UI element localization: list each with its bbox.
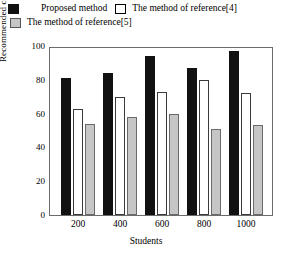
bar-600-series-3 bbox=[169, 114, 179, 215]
legend-swatch-reference-5 bbox=[10, 18, 21, 28]
x-tick-label: 1000 bbox=[226, 219, 266, 229]
chart-legend: Proposed method The method of reference[… bbox=[0, 0, 292, 28]
x-tick-label: 800 bbox=[184, 219, 224, 229]
y-axis-title: Recommended coverage rate/% bbox=[0, 0, 8, 62]
y-tick-label: 20 bbox=[19, 176, 45, 186]
bar-group-400 bbox=[100, 48, 140, 215]
bar-group-1000 bbox=[226, 48, 266, 215]
legend-row-first: Proposed method The method of reference[… bbox=[0, 3, 292, 14]
bar-400-series-1 bbox=[103, 73, 113, 215]
bar-group-600 bbox=[142, 48, 182, 215]
y-tick-label: 80 bbox=[19, 75, 45, 85]
legend-label-reference-5: The method of reference[5] bbox=[27, 17, 132, 28]
bar-800-series-2 bbox=[199, 80, 209, 215]
bar-group-800 bbox=[184, 48, 224, 215]
bar-1000-series-3 bbox=[253, 125, 263, 215]
x-tick-label: 200 bbox=[58, 219, 98, 229]
legend-swatch-proposed-method bbox=[8, 4, 19, 14]
bar-800-series-1 bbox=[187, 68, 197, 215]
y-tick-label: 60 bbox=[19, 109, 45, 119]
y-tick-label: 40 bbox=[19, 142, 45, 152]
x-tick-label: 400 bbox=[100, 219, 140, 229]
bar-1000-series-1 bbox=[229, 51, 239, 215]
legend-label-proposed-method: Proposed method bbox=[41, 3, 107, 14]
bar-600-series-2 bbox=[157, 92, 167, 215]
chart-container: Proposed method The method of reference[… bbox=[0, 0, 292, 262]
bar-200-series-3 bbox=[85, 124, 95, 215]
legend-label-reference-4: The method of reference[4] bbox=[132, 3, 237, 14]
bar-200-series-1 bbox=[61, 78, 71, 215]
y-tick-label: 100 bbox=[19, 41, 45, 51]
bar-200-series-2 bbox=[73, 109, 83, 215]
bar-400-series-3 bbox=[127, 117, 137, 215]
bars-layer bbox=[50, 48, 272, 215]
bar-1000-series-2 bbox=[241, 93, 251, 215]
legend-row-second: The method of reference[5] bbox=[0, 17, 292, 28]
bar-group-200 bbox=[58, 48, 98, 215]
bar-600-series-1 bbox=[145, 56, 155, 215]
x-axis-title: Students bbox=[0, 236, 292, 246]
x-tick-label: 600 bbox=[142, 219, 182, 229]
bar-800-series-3 bbox=[211, 129, 221, 215]
bar-400-series-2 bbox=[115, 97, 125, 215]
legend-swatch-reference-4 bbox=[115, 4, 126, 14]
y-tick-label: 0 bbox=[19, 210, 45, 220]
